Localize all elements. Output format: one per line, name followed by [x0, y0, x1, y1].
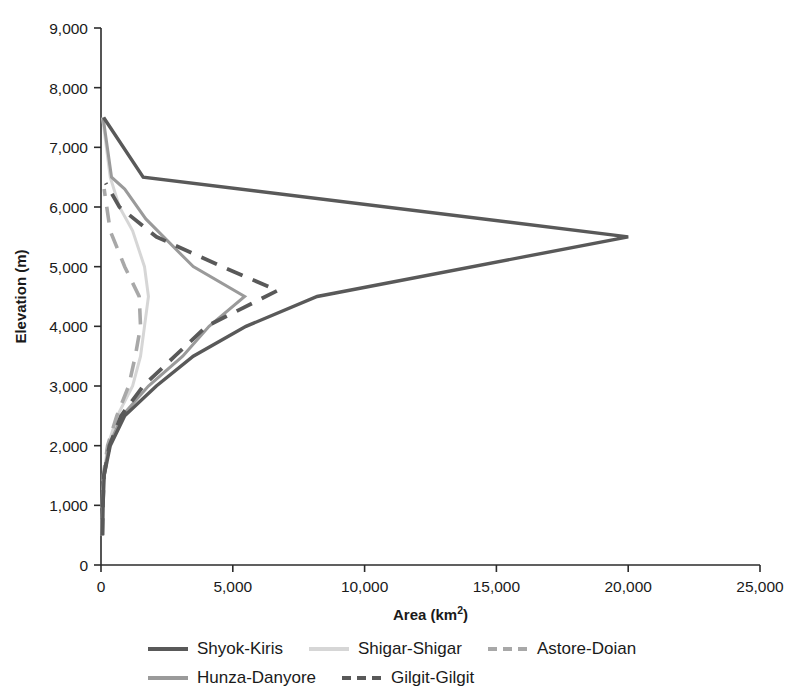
- legend-line-swatch-icon: [342, 671, 382, 685]
- x-tick-label: 20,000: [604, 578, 652, 595]
- legend-entry-gilgit-gilgit[interactable]: Gilgit-Gilgit: [342, 663, 474, 692]
- y-tick-label: 2,000: [49, 438, 88, 455]
- y-axis-title: Elevation (m): [12, 249, 29, 343]
- legend-line-swatch-icon: [148, 642, 188, 656]
- legend-label: Gilgit-Gilgit: [391, 668, 474, 688]
- x-axis-title: Area (km2): [393, 604, 468, 623]
- legend-label: Astore-Doian: [537, 639, 636, 659]
- legend-entry-astore-doian[interactable]: Astore-Doian: [488, 634, 636, 663]
- x-axis-title-base: Area (km: [393, 606, 457, 623]
- y-tick-label: 3,000: [49, 378, 88, 395]
- legend-entry-hunza-danyore[interactable]: Hunza-Danyore: [148, 663, 316, 692]
- x-tick-label: 10,000: [341, 578, 389, 595]
- elevation-area-line-chart: 01,0002,0003,0004,0005,0006,0007,0008,00…: [0, 0, 798, 634]
- y-tick-label: 5,000: [49, 259, 88, 276]
- y-tick-label: 8,000: [49, 80, 88, 97]
- series-line-shigar-shigar: [102, 118, 149, 536]
- legend-label: Shyok-Kiris: [197, 639, 283, 659]
- x-tick-label: 25,000: [736, 578, 784, 595]
- x-axis-title-tail: ): [463, 606, 468, 623]
- y-tick-label: 6,000: [49, 199, 88, 216]
- series-line-shyok-kiris: [103, 118, 629, 536]
- legend-label: Hunza-Danyore: [197, 668, 316, 688]
- y-tick-label: 0: [79, 557, 88, 574]
- chart-legend: Shyok-KirisShigar-ShigarAstore-DoianHunz…: [0, 634, 798, 692]
- legend-entry-shyok-kiris[interactable]: Shyok-Kiris: [148, 634, 283, 663]
- legend-row: Shyok-KirisShigar-ShigarAstore-Doian: [0, 634, 798, 663]
- legend-line-swatch-icon: [309, 642, 349, 656]
- x-tick-label: 5,000: [213, 578, 252, 595]
- x-tick-label: 0: [97, 578, 106, 595]
- legend-entry-shigar-shigar[interactable]: Shigar-Shigar: [309, 634, 462, 663]
- legend-line-swatch-icon: [488, 642, 528, 656]
- legend-label: Shigar-Shigar: [358, 639, 462, 659]
- y-tick-label: 7,000: [49, 139, 88, 156]
- chart-figure: 01,0002,0003,0004,0005,0006,0007,0008,00…: [0, 0, 798, 692]
- y-tick-label: 1,000: [49, 497, 88, 514]
- legend-row: Hunza-DanyoreGilgit-Gilgit: [0, 663, 798, 692]
- x-tick-label: 15,000: [473, 578, 521, 595]
- y-tick-label: 4,000: [49, 318, 88, 335]
- y-tick-label: 9,000: [49, 20, 88, 37]
- legend-line-swatch-icon: [148, 671, 188, 685]
